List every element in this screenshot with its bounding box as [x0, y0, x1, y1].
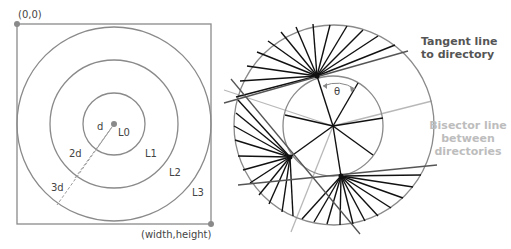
bisector-annotation-line2: between — [441, 132, 495, 145]
bisector-annotation-line3: directories — [434, 145, 502, 158]
level-label-l2: L2 — [169, 167, 181, 178]
theta-label: θ — [334, 86, 340, 97]
diagram-canvas: (0,0) (width,height) L0 L1 L2 L3 d 2d 3d — [0, 0, 511, 249]
corner-label: (width,height) — [141, 229, 212, 240]
top-hub — [315, 74, 320, 79]
left-level-diagram: (0,0) (width,height) L0 L1 L2 L3 d 2d 3d — [14, 9, 214, 240]
corner-dot — [208, 221, 214, 227]
level-label-l1: L1 — [145, 148, 157, 159]
right-directory-diagram: θ — [224, 24, 437, 234]
distance-label-d: d — [97, 121, 103, 132]
distance-label-2d: 2d — [69, 148, 82, 159]
tangent-annotation-line1: Tangent line — [421, 35, 497, 48]
left-hub — [288, 155, 293, 160]
level-label-l3: L3 — [192, 187, 204, 198]
level-label-l0: L0 — [118, 127, 130, 138]
tangent-annotation-line2: to directory — [421, 48, 494, 61]
tangent-annotation: Tangent line to directory — [421, 35, 497, 61]
bottom-hub-spokes — [302, 175, 421, 225]
center-dot — [111, 121, 117, 127]
bottom-hub — [339, 174, 344, 179]
origin-label: (0,0) — [18, 9, 42, 20]
distance-label-3d: 3d — [51, 182, 64, 193]
bisector-annotation: Bisector line between directories — [429, 119, 507, 158]
bisector-annotation-line1: Bisector line — [429, 119, 507, 132]
origin-dot — [14, 21, 20, 27]
